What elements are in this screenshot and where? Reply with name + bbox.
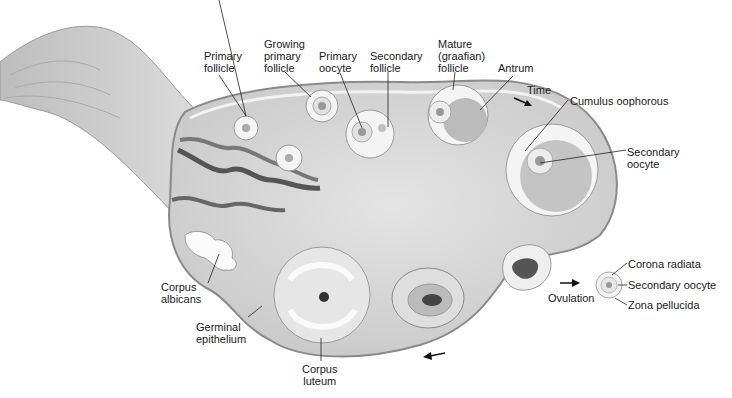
label-corpus-albicans: Corpus albicans [161,281,201,305]
ovulation-arrow [560,279,580,287]
label-ovulation: Ovulation [548,292,594,304]
label-zona-pellucida: Zona pellucida [628,299,700,311]
cycle-arrow [423,352,445,360]
ovary-diagram: Primary follicle Growing primary follicl… [0,0,732,398]
growing-primary-follicle [306,90,338,122]
label-secondary-follicle: Secondary follicle [370,50,423,74]
ovary-illustration [0,0,732,398]
label-cumulus-oophorous: Cumulus oophorous [570,95,668,107]
mature-follicle [428,85,488,145]
label-germinal-epithelium: Germinal epithelium [196,321,246,345]
corpus-luteum [274,247,370,343]
label-mature-follicle: Mature (graafian) follicle [438,38,485,74]
ruptured-follicle [503,245,551,290]
label-corpus-luteum: Corpus luteum [302,363,337,387]
label-time: Time [527,84,551,96]
primary-follicle-2 [276,145,302,171]
developing-corpus-luteum [392,268,464,328]
primary-follicle [234,116,258,140]
label-antrum: Antrum [498,62,533,74]
label-primary-oocyte: Primary oocyte [319,50,357,74]
label-growing-primary-follicle: Growing primary follicle [264,38,305,74]
secondary-follicle [346,110,394,158]
label-corona-radiata: Corona radiata [628,258,701,270]
label-primary-follicle: Primary follicle [204,50,242,74]
ovulating-follicle [506,124,598,216]
label-secondary-oocyte: Secondary oocyte [627,146,680,170]
label-released-secondary-oocyte: Secondary oocyte [628,279,716,291]
